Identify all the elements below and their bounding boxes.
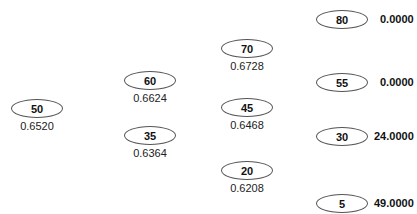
- node-2-1-prob: 0.6468: [217, 119, 277, 131]
- leaf-2: 30: [316, 127, 368, 146]
- node-2-2: 20: [221, 161, 273, 180]
- node-1-0: 60: [124, 71, 176, 90]
- node-1-1: 35: [124, 126, 176, 145]
- leaf-1: 55: [316, 73, 368, 92]
- node-2-0-prob: 0.6728: [217, 60, 277, 72]
- node-1-1-prob: 0.6364: [120, 147, 180, 159]
- node-2-0: 70: [221, 39, 273, 58]
- node-0-0: 50: [11, 99, 63, 118]
- node-1-0-prob: 0.6624: [120, 92, 180, 104]
- leaf-0: 80: [316, 10, 368, 29]
- node-0-0-prob: 0.6520: [7, 120, 67, 132]
- node-2-1: 45: [221, 98, 273, 117]
- leaf-2-payoff: 24.0000: [374, 130, 414, 142]
- node-2-2-prob: 0.6208: [217, 182, 277, 194]
- leaf-3-payoff: 49.0000: [374, 197, 414, 209]
- leaf-0-payoff: 0.0000: [380, 13, 414, 25]
- leaf-1-payoff: 0.0000: [380, 76, 414, 88]
- leaf-3: 5: [316, 194, 368, 213]
